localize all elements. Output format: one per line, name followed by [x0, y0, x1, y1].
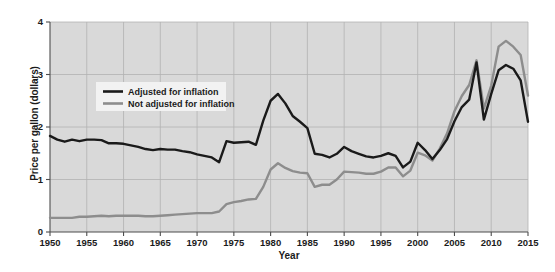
plot-area: 01234 1950195519601965197019751980198519… [0, 0, 555, 272]
x-tick-label: 1960 [113, 237, 134, 248]
x-tick-label: 1990 [334, 237, 355, 248]
y-tick-label: 0 [38, 226, 43, 237]
chart-figure: Price per gallon (dollars) Year 01234 19… [0, 0, 555, 272]
legend-label[interactable]: Not adjusted for inflation [128, 99, 235, 109]
chart-legend[interactable]: Adjusted for inflationNot adjusted for i… [96, 82, 235, 111]
x-tick-label: 1950 [39, 237, 60, 248]
y-tick-label: 3 [38, 69, 43, 80]
x-tick-label: 1970 [187, 237, 208, 248]
x-tick-label: 2000 [407, 237, 428, 248]
x-tick-label: 2005 [444, 237, 466, 248]
x-tick-label: 1965 [150, 237, 172, 248]
y-tick-label: 1 [38, 174, 44, 185]
x-tick-label: 1980 [260, 237, 281, 248]
y-tick-label: 2 [38, 121, 43, 132]
x-tick-label: 1975 [223, 237, 245, 248]
y-axis-ticks: 01234 [38, 16, 50, 237]
x-tick-label: 2010 [481, 237, 502, 248]
x-tick-label: 1995 [370, 237, 392, 248]
legend-label[interactable]: Adjusted for inflation [128, 87, 219, 97]
x-tick-label: 1985 [297, 237, 319, 248]
line-chart-svg: 01234 1950195519601965197019751980198519… [0, 0, 555, 272]
x-tick-label: 2015 [517, 237, 539, 248]
y-tick-label: 4 [38, 16, 44, 27]
x-tick-label: 1955 [76, 237, 98, 248]
x-axis-ticks: 1950195519601965197019751980198519901995… [39, 232, 539, 248]
